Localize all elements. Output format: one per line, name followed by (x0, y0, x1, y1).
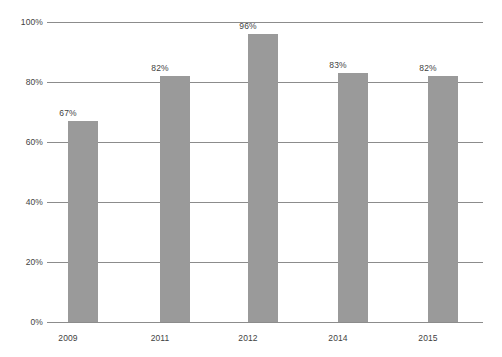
bar-2012[interactable] (248, 34, 278, 322)
x-axis-label-2012: 2012 (218, 334, 278, 343)
x-axis-label-2009: 2009 (38, 334, 98, 343)
y-axis-tick-label: 20% (3, 258, 43, 267)
bar-value-label-2015: 82% (398, 64, 458, 73)
y-axis-tick-label: 60% (3, 138, 43, 147)
bar-2014[interactable] (338, 73, 368, 322)
x-axis-label-2015: 2015 (398, 334, 458, 343)
bar-value-label-2009: 67% (38, 109, 98, 118)
x-axis-label-2014: 2014 (308, 334, 368, 343)
y-axis-tick-label: 40% (3, 198, 43, 207)
axis-baseline-0 (47, 322, 483, 323)
y-axis-tick-label: 80% (3, 78, 43, 87)
bar-value-label-2011: 82% (130, 64, 190, 73)
x-axis-label-2011: 2011 (130, 334, 190, 343)
bar-2015[interactable] (428, 76, 458, 322)
y-axis: 100% 80% 60% 40% 20% 0% (0, 22, 43, 322)
chart-caption (18, 351, 438, 357)
bar-2009[interactable] (68, 121, 98, 322)
bar-chart: 100% 80% 60% 40% 20% 0% 67% 82% 96% 83% … (0, 0, 502, 357)
bar-value-label-2014: 83% (308, 61, 368, 70)
bar-value-label-2012: 96% (218, 22, 278, 31)
y-axis-tick-label: 100% (3, 18, 43, 27)
bar-2011[interactable] (160, 76, 190, 322)
y-axis-tick-label: 0% (3, 318, 43, 327)
